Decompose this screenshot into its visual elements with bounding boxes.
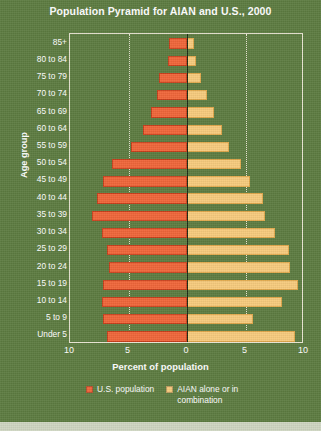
pyramid-row: [70, 51, 302, 68]
bar-aian-population: [187, 211, 265, 221]
bar-aian-population: [187, 280, 298, 290]
bar-aian-population: [187, 73, 201, 83]
x-axis-tick-label: 5: [232, 345, 258, 355]
y-axis-tick-label: 55 to 59: [7, 140, 67, 150]
y-axis-tick-label: 5 to 9: [7, 312, 67, 322]
y-axis-labels: 85+80 to 8475 to 7970 to 7465 to 6960 to…: [3, 33, 67, 343]
y-axis-tick-label: 70 to 74: [7, 88, 67, 98]
y-axis-tick-label: 10 to 14: [7, 295, 67, 305]
pyramid-row: [70, 103, 302, 120]
pyramid-row: [70, 310, 302, 327]
bar-aian-population: [187, 331, 295, 341]
bar-us-population: [109, 262, 187, 272]
bar-aian-population: [187, 297, 282, 307]
pyramid-row: [70, 241, 302, 258]
chart-title: Population Pyramid for AIAN and U.S., 20…: [0, 5, 321, 17]
legend-swatch-icon: [166, 386, 173, 393]
bar-us-population: [143, 125, 187, 135]
x-axis-tick-label: 10: [56, 345, 82, 355]
y-axis-tick-label: 35 to 39: [7, 209, 67, 219]
legend-label: U.S. population: [97, 384, 154, 395]
bar-us-population: [107, 331, 187, 341]
bar-us-population: [102, 228, 187, 238]
bar-us-population: [169, 38, 187, 48]
legend-item: U.S. population: [86, 384, 154, 395]
x-axis-tick-label: 10: [290, 345, 316, 355]
legend-label: AIAN alone or in combination: [177, 384, 259, 405]
bar-aian-population: [187, 125, 222, 135]
y-axis-title: Age group: [19, 115, 29, 195]
pyramid-row: [70, 155, 302, 172]
y-axis-tick-label: 40 to 44: [7, 192, 67, 202]
y-axis-tick-label: 75 to 79: [7, 71, 67, 81]
y-axis-tick-label: 45 to 49: [7, 174, 67, 184]
bar-us-population: [131, 142, 187, 152]
bar-aian-population: [187, 228, 275, 238]
bar-us-population: [92, 211, 187, 221]
y-axis-tick-label: 50 to 54: [7, 157, 67, 167]
y-axis-tick-label: 20 to 24: [7, 261, 67, 271]
y-axis-tick-label: 25 to 29: [7, 243, 67, 253]
pyramid-row: [70, 137, 302, 154]
y-axis-tick-label: 15 to 19: [7, 278, 67, 288]
legend-item: AIAN alone or in combination: [166, 384, 259, 405]
bar-us-population: [97, 193, 187, 203]
bar-us-population: [107, 245, 187, 255]
bar-aian-population: [187, 176, 250, 186]
bar-us-population: [103, 280, 187, 290]
bar-us-population: [151, 107, 187, 117]
y-axis-tick-label: Under 5: [7, 329, 67, 339]
zero-axis-line: [187, 34, 188, 342]
pyramid-row: [70, 223, 302, 240]
bar-us-population: [168, 56, 187, 66]
x-axis-title: Percent of population: [0, 361, 321, 372]
pyramid-row: [70, 172, 302, 189]
bar-aian-population: [187, 245, 289, 255]
bar-aian-population: [187, 107, 214, 117]
pyramid-row: [70, 68, 302, 85]
pyramid-row: [70, 189, 302, 206]
chart-legend: U.S. populationAIAN alone or in combinat…: [86, 384, 259, 405]
pyramid-row: [70, 206, 302, 223]
legend-swatch-icon: [86, 386, 93, 393]
pyramid-row: [70, 275, 302, 292]
y-axis-tick-label: 30 to 34: [7, 226, 67, 236]
bar-us-population: [103, 314, 187, 324]
pyramid-row: [70, 258, 302, 275]
x-axis-ticks: 1050510: [69, 345, 303, 359]
bar-aian-population: [187, 142, 229, 152]
bar-us-population: [159, 73, 187, 83]
y-axis-tick-label: 65 to 69: [7, 106, 67, 116]
bar-us-population: [157, 90, 187, 100]
bar-aian-population: [187, 90, 207, 100]
bar-aian-population: [187, 38, 194, 48]
pyramid-row: [70, 120, 302, 137]
y-axis-tick-label: 80 to 84: [7, 54, 67, 64]
bar-us-population: [103, 176, 187, 186]
bar-aian-population: [187, 262, 290, 272]
page-bottom-band: [0, 422, 321, 431]
bar-aian-population: [187, 193, 263, 203]
y-axis-tick-label: 85+: [7, 37, 67, 47]
pyramid-row: [70, 86, 302, 103]
bar-aian-population: [187, 314, 253, 324]
pyramid-row: [70, 34, 302, 51]
bar-aian-population: [187, 56, 196, 66]
bar-us-population: [112, 159, 187, 169]
pyramid-row: [70, 327, 302, 344]
chart-plot-area: [69, 33, 303, 343]
x-axis-tick-label: 0: [173, 345, 199, 355]
bar-aian-population: [187, 159, 241, 169]
x-axis-tick-label: 5: [115, 345, 141, 355]
y-axis-tick-label: 60 to 64: [7, 123, 67, 133]
pyramid-row: [70, 292, 302, 309]
bar-us-population: [102, 297, 187, 307]
